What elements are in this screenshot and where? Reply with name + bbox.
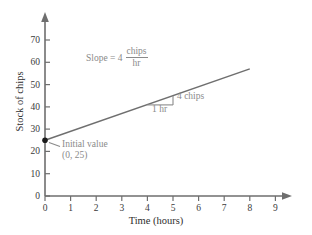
y-tick-label-70: 70 xyxy=(14,36,40,46)
initial-value-leader-line xyxy=(49,143,60,147)
plot-area xyxy=(0,0,312,235)
x-tick-label-7: 7 xyxy=(214,204,234,214)
initial-value-point xyxy=(42,138,48,144)
slope-fraction: chips hr xyxy=(126,47,148,69)
x-tick-label-6: 6 xyxy=(189,204,209,214)
slope-annotation-prefix: Slope = 4 xyxy=(86,53,123,63)
x-tick-label-5: 5 xyxy=(163,204,183,214)
x-tick-label-0: 0 xyxy=(35,204,55,214)
y-axis-arrowhead xyxy=(41,12,49,22)
x-tick-label-3: 3 xyxy=(112,204,132,214)
chart-figure: 0 10 20 30 40 50 60 70 0 1 2 3 4 5 6 7 8… xyxy=(0,0,312,235)
y-tick-label-0: 0 xyxy=(14,192,40,202)
slope-fraction-numerator: chips xyxy=(126,47,148,57)
initial-value-annotation: Initial value (0, 25) xyxy=(62,139,108,161)
rise-label: 4 chips xyxy=(177,91,204,102)
y-axis-title: Stock of chips xyxy=(14,47,25,157)
x-axis-title: Time (hours) xyxy=(0,215,312,226)
x-tick-label-9: 9 xyxy=(265,204,285,214)
slope-fraction-denominator: hr xyxy=(126,57,148,68)
x-tick-label-8: 8 xyxy=(240,204,260,214)
x-tick-label-2: 2 xyxy=(86,204,106,214)
x-tick-label-4: 4 xyxy=(137,204,157,214)
initial-value-annotation-line1: Initial value xyxy=(62,139,108,150)
run-label: 1 hr xyxy=(152,104,167,115)
y-tick-label-10: 10 xyxy=(14,170,40,180)
slope-annotation: Slope = 4 chips hr xyxy=(86,47,148,69)
x-tick-label-1: 1 xyxy=(61,204,81,214)
x-axis-arrowhead xyxy=(282,192,292,200)
initial-value-annotation-line2: (0, 25) xyxy=(62,150,108,161)
